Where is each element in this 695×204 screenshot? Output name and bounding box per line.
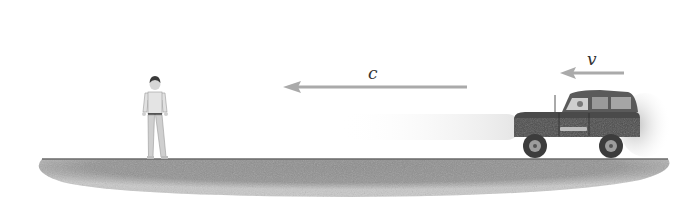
light-speed-label: c <box>368 63 378 83</box>
diagram-canvas <box>0 0 695 204</box>
door-logo <box>560 127 587 131</box>
vehicle-velocity-label: v <box>587 49 597 69</box>
front-wheel <box>523 134 547 158</box>
observer-figure <box>142 76 168 159</box>
diagram-scene: c v <box>0 0 695 204</box>
vehicle-jeep <box>514 90 640 158</box>
rear-wheel <box>599 134 623 158</box>
ground <box>39 159 670 197</box>
